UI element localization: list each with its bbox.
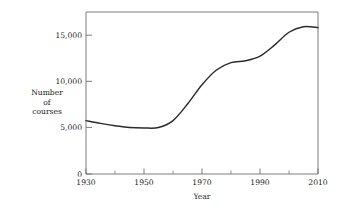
y-axis-tick-labels: 0 5,000 10,000 15,000 <box>55 31 82 179</box>
x-axis-ticks <box>86 169 318 175</box>
y-axis-title-line-1: Number <box>31 88 63 97</box>
x-tick-label-1950: 1950 <box>134 178 153 187</box>
y-axis-ticks <box>86 35 92 174</box>
data-series-line <box>86 27 318 129</box>
x-tick-label-1990: 1990 <box>250 178 269 187</box>
x-axis-tick-labels: 1930 1950 1970 1990 2010 <box>76 178 327 187</box>
chart-figure: 0 5,000 10,000 15,000 1930 1950 1970 199… <box>0 0 341 210</box>
y-axis-title-line-2: of <box>43 98 52 107</box>
y-axis-title-line-3: courses <box>32 107 62 116</box>
x-tick-label-2010: 2010 <box>308 178 327 187</box>
y-tick-label-5000: 5,000 <box>60 123 82 132</box>
chart-svg: 0 5,000 10,000 15,000 1930 1950 1970 199… <box>0 0 341 210</box>
y-axis-title: Number of courses <box>31 88 63 116</box>
x-tick-label-1970: 1970 <box>192 178 211 187</box>
y-tick-label-15000: 15,000 <box>55 31 82 40</box>
x-tick-label-1930: 1930 <box>76 178 95 187</box>
x-axis-title: Year <box>192 192 210 201</box>
y-tick-label-10000: 10,000 <box>55 77 82 86</box>
